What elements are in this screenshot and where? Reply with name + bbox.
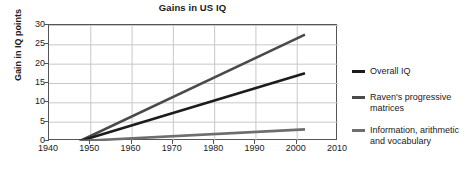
legend-item[interactable]: Overall IQ (352, 66, 411, 77)
x-tick-mark (172, 140, 173, 144)
x-tick-label: 1940 (25, 143, 71, 153)
legend-item[interactable]: Raven's progressive matrices (352, 92, 451, 114)
x-tick-label: 1950 (66, 143, 112, 153)
x-tick-label: 1980 (190, 143, 236, 153)
chart-figure: Gains in US IQ Gain in IQ points 0510152… (0, 0, 474, 175)
x-tick-label: 1990 (231, 143, 277, 153)
x-tick-mark (213, 140, 214, 144)
legend-label: Overall IQ (370, 66, 411, 77)
x-tick-mark (131, 140, 132, 144)
x-axis-ticks: 19401950196019701980199020002010 (0, 0, 474, 175)
x-tick-mark (254, 140, 255, 144)
legend-swatch-icon (352, 70, 365, 73)
legend-label: Information, arithmetic and vocabulary (370, 125, 459, 147)
x-tick-mark (89, 140, 90, 144)
legend-swatch-icon (352, 129, 365, 132)
legend-swatch-icon (352, 96, 365, 99)
x-tick-label: 1960 (108, 143, 154, 153)
x-tick-label: 1970 (149, 143, 195, 153)
x-tick-mark (296, 140, 297, 144)
legend-label: Raven's progressive matrices (370, 92, 451, 114)
x-tick-label: 2000 (273, 143, 319, 153)
legend-item[interactable]: Information, arithmetic and vocabulary (352, 125, 459, 147)
